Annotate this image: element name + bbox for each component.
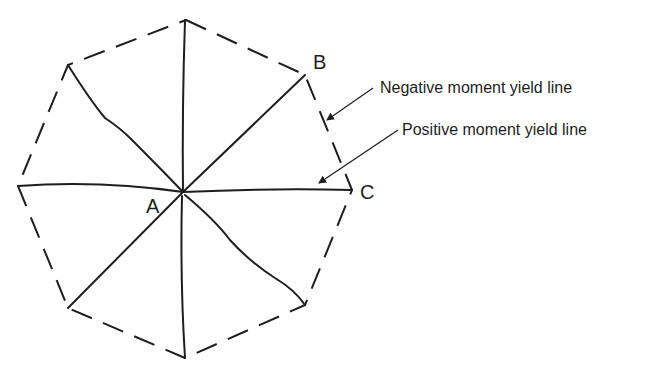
radial-line-lower-left [68, 192, 183, 308]
radial-line-left [18, 184, 183, 192]
point-label-a: A [146, 195, 160, 217]
negative-moment-label: Negative moment yield line [380, 79, 572, 96]
radial-line-top [183, 20, 185, 192]
radial-line-to-b [183, 75, 305, 192]
positive-moment-label: Positive moment yield line [402, 121, 587, 138]
radial-line-to-c [183, 189, 352, 192]
point-label-c: C [360, 181, 374, 203]
yield-line-diagram: A B C Negative moment yield line Positiv… [0, 0, 665, 375]
positive-moment-leader-arrow [319, 130, 398, 183]
radial-line-lower-right [185, 195, 305, 305]
point-label-b: B [313, 51, 326, 73]
radial-line-bottom [181, 196, 185, 358]
radial-line-upper-left [68, 65, 183, 192]
negative-moment-leader-arrow [327, 88, 373, 120]
